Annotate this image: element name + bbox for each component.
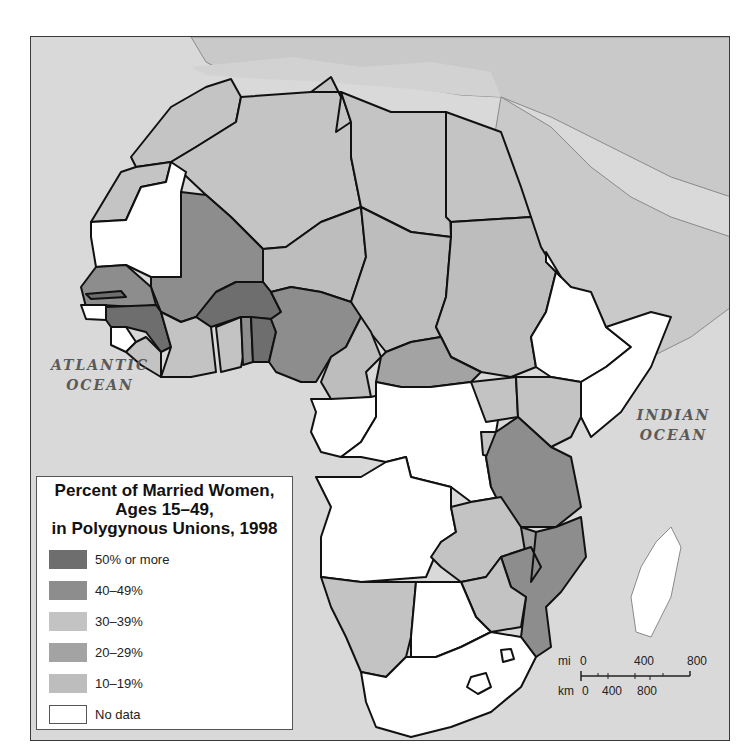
scale-mi-800: 800 — [687, 654, 707, 668]
legend-title-line-1: Percent of Married Women, — [43, 481, 286, 500]
country-swaziland — [501, 649, 514, 662]
legend-label: 30–39% — [95, 614, 143, 629]
country-ghana — [216, 317, 243, 372]
swatch-50-plus — [49, 550, 87, 569]
legend-label: 50% or more — [95, 552, 169, 567]
legend-item-20-29: 20–29% — [43, 637, 286, 668]
swatch-20-29 — [49, 643, 87, 662]
scale-km-800: 800 — [637, 684, 657, 698]
scale-line — [580, 670, 695, 682]
legend-title-line-3: in Polygynous Unions, 1998 — [43, 519, 286, 538]
swatch-no-data — [49, 705, 87, 724]
legend-label: 20–29% — [95, 645, 143, 660]
legend-item-30-39: 30–39% — [43, 606, 286, 637]
legend-item-40-49: 40–49% — [43, 575, 286, 606]
legend-title: Percent of Married Women, Ages 15–49, in… — [43, 481, 286, 538]
swatch-40-49 — [49, 581, 87, 600]
legend-title-line-2: Ages 15–49, — [43, 500, 286, 519]
map-legend: Percent of Married Women, Ages 15–49, in… — [36, 476, 293, 730]
legend-item-no-data: No data — [43, 699, 286, 730]
country-madagascar — [631, 527, 681, 637]
legend-item-50-plus: 50% or more — [43, 544, 286, 575]
atlantic-line-1: ATLANTIC — [45, 355, 155, 375]
legend-item-10-19: 10–19% — [43, 668, 286, 699]
legend-label: No data — [95, 707, 141, 722]
legend-label: 10–19% — [95, 676, 143, 691]
indian-line-2: OCEAN — [621, 425, 726, 445]
atlantic-ocean-label: ATLANTIC OCEAN — [45, 355, 155, 395]
scale-bar: mi 0 400 800 km 0 400 800 — [558, 654, 728, 704]
scale-mi-400: 400 — [634, 654, 654, 668]
legend-label: 40–49% — [95, 583, 143, 598]
atlantic-line-2: OCEAN — [45, 375, 155, 395]
country-guinea-bissau — [81, 305, 106, 320]
scale-mi-label: mi — [558, 654, 571, 668]
scale-km-400: 400 — [602, 684, 622, 698]
scale-mi-0: 0 — [580, 654, 587, 668]
scale-km-0: 0 — [582, 684, 589, 698]
scale-km-label: km — [558, 684, 574, 698]
map-frame: ATLANTIC OCEAN INDIAN OCEAN Percent of M… — [30, 36, 730, 741]
swatch-10-19 — [49, 674, 87, 693]
swatch-30-39 — [49, 612, 87, 631]
indian-ocean-label: INDIAN OCEAN — [621, 405, 726, 445]
indian-line-1: INDIAN — [621, 405, 726, 425]
